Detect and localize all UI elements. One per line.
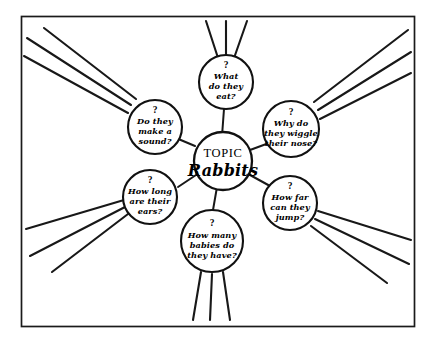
bubble-upper-left-line-2: make a	[138, 126, 172, 136]
bubble-upper-right-line-2: they wiggle	[264, 128, 318, 138]
bubble-upper-right-line-3: their nose?	[265, 138, 317, 148]
bubble-lower-left-line-3: ears?	[138, 206, 163, 216]
bubble-lower-left[interactable]: ? How long are their ears?	[123, 170, 177, 224]
bubble-lower-left-line-2: are their	[130, 196, 172, 206]
bubble-bottom-question-icon: ?	[210, 218, 215, 228]
bubble-bottom-line-3: they have?	[187, 250, 237, 260]
bubble-lower-left-line-1: How long	[127, 186, 172, 196]
bubble-top-line-2: do they	[209, 81, 245, 91]
bubble-upper-left-line-1: Do they	[136, 116, 174, 126]
bubble-lower-right-question-icon: ?	[288, 181, 293, 191]
spider-map-canvas: ? What do they eat? ? Do they make a sou…	[0, 0, 436, 342]
bubble-lower-right-line-3: jump?	[274, 212, 305, 222]
bubble-top-line-3: eat?	[216, 91, 236, 101]
center-topic-label: TOPIC	[204, 146, 243, 160]
bubble-bottom[interactable]: ? How many babies do they have?	[181, 210, 243, 272]
bubble-upper-left-line-3: sound?	[138, 136, 171, 146]
bubble-upper-right[interactable]: ? Why do they wiggle their nose?	[263, 101, 319, 157]
bubble-upper-right-question-icon: ?	[289, 107, 294, 117]
bubble-lower-right-line-1: How far	[271, 192, 310, 202]
bubble-top[interactable]: ? What do they eat?	[199, 55, 253, 109]
bubble-top-line-1: What	[214, 71, 239, 81]
bubble-bottom-line-1: How many	[187, 230, 238, 240]
bubble-top-question-icon: ?	[224, 60, 229, 70]
bubble-lower-left-question-icon: ?	[148, 175, 153, 185]
bubble-upper-left-question-icon: ?	[153, 105, 158, 115]
spider-map-diagram: ? What do they eat? ? Do they make a sou…	[0, 0, 436, 342]
bubble-upper-right-line-1: Why do	[274, 118, 309, 128]
bubble-lower-right-line-2: can they	[270, 202, 311, 212]
bubble-lower-right[interactable]: ? How far can they jump?	[263, 176, 317, 230]
bubble-upper-left[interactable]: ? Do they make a sound?	[128, 100, 182, 154]
center-topic-value: Rabbits	[187, 161, 258, 180]
bubble-bottom-line-2: babies do	[190, 240, 235, 250]
